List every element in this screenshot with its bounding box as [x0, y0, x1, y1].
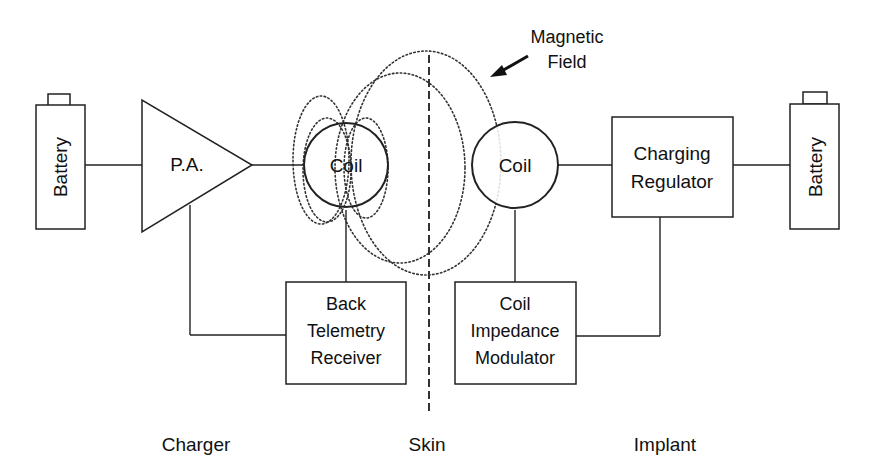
modulator-line2: Impedance	[470, 321, 559, 341]
back-telemetry-line2: Telemetry	[307, 321, 385, 341]
modulator-line3: Modulator	[475, 348, 555, 368]
magnetic-field-lines	[293, 51, 501, 275]
magnetic-field-label-line1: Magnetic	[530, 27, 603, 47]
implant-coil: Coil	[472, 122, 558, 208]
regulator-line2: Regulator	[631, 171, 714, 192]
modulator-line1: Coil	[499, 294, 530, 314]
section-label-charger: Charger	[162, 434, 231, 455]
section-label-implant: Implant	[634, 434, 697, 455]
power-amplifier: P.A.	[142, 100, 252, 232]
external-coil-label: Coil	[330, 155, 363, 176]
regulator-line1: Charging	[633, 143, 710, 164]
implant-coil-label: Coil	[499, 155, 532, 176]
coil-impedance-modulator: Coil Impedance Modulator	[455, 282, 576, 384]
wireless-charging-block-diagram: Battery P.A. Coil Coil Back Telemetry Re…	[0, 0, 873, 476]
back-telemetry-receiver: Back Telemetry Receiver	[286, 282, 406, 384]
arrow-icon	[490, 56, 528, 77]
back-telemetry-line3: Receiver	[310, 348, 381, 368]
implant-battery-label: Battery	[805, 136, 826, 197]
implant-battery: Battery	[790, 92, 839, 229]
magnetic-field-annotation: Magnetic Field	[490, 27, 604, 77]
power-amplifier-label: P.A.	[170, 154, 203, 175]
back-telemetry-line1: Back	[326, 294, 367, 314]
external-coil: Coil	[304, 123, 388, 207]
charger-battery-label: Battery	[50, 136, 71, 197]
section-label-skin: Skin	[409, 434, 446, 455]
magnetic-field-label-line2: Field	[547, 52, 586, 72]
charger-battery: Battery	[36, 94, 85, 229]
charging-regulator: Charging Regulator	[612, 117, 733, 217]
